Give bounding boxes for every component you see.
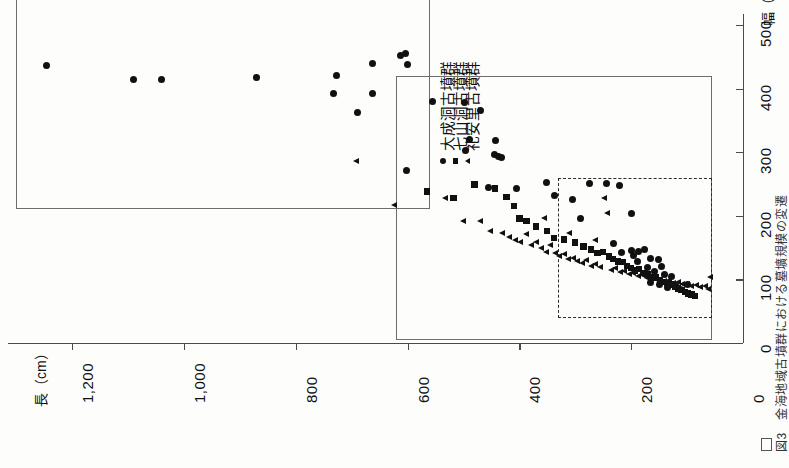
large-tomb-group-box <box>16 0 430 209</box>
width-tick-label: 300 <box>757 148 774 175</box>
length-tick-label: 200 <box>638 376 655 403</box>
legend-marker-square <box>453 158 459 164</box>
length-tick <box>519 343 520 350</box>
data-point-triangle <box>597 264 603 270</box>
data-point-circle <box>655 256 662 263</box>
data-point-circle <box>569 196 576 203</box>
length-tick-label: 600 <box>415 376 432 403</box>
data-point-square <box>533 223 539 229</box>
data-point-triangle <box>543 249 549 255</box>
length-tick <box>72 343 73 350</box>
figure-caption: 図3 金海地域古墳群における墓壙規模の変遷 <box>772 195 789 452</box>
data-point-square <box>551 235 557 241</box>
data-point-circle <box>551 192 558 199</box>
data-point-circle <box>369 90 376 97</box>
length-tick <box>408 343 409 350</box>
width-tick <box>736 25 743 26</box>
width-axis-line <box>743 14 744 343</box>
data-point-circle <box>492 137 499 144</box>
data-point-circle <box>330 90 337 97</box>
width-tick <box>736 279 743 280</box>
data-point-square <box>424 188 430 194</box>
legend-marker-circle <box>440 158 446 164</box>
figure-number-box <box>761 438 772 451</box>
legend-marker-triangle <box>465 158 470 164</box>
width-axis-title: 幅（cm） <box>757 0 777 26</box>
data-point-circle <box>158 76 165 83</box>
length-tick-label: 400 <box>526 376 543 403</box>
length-tick <box>184 343 185 350</box>
data-point-square <box>588 246 594 252</box>
data-point-triangle <box>601 195 607 201</box>
data-point-triangle <box>460 218 466 224</box>
data-point-square <box>572 239 578 245</box>
data-point-circle <box>603 180 610 187</box>
data-point-triangle <box>442 195 448 201</box>
data-point-square <box>523 218 529 224</box>
data-point-circle <box>130 76 137 83</box>
width-tick <box>736 152 743 153</box>
data-point-circle <box>610 240 617 247</box>
data-point-triangle <box>533 239 539 245</box>
data-point-triangle <box>487 228 493 234</box>
data-point-circle <box>404 61 411 68</box>
length-tick <box>631 343 632 350</box>
length-axis-line <box>8 343 743 344</box>
length-axis-title: 長（cm） <box>30 346 50 407</box>
data-point-square <box>692 293 698 299</box>
data-point-square <box>450 195 456 201</box>
data-point-circle <box>498 154 505 161</box>
data-point-circle <box>369 60 376 67</box>
legend-label: 礼安里古墳群 <box>461 61 482 151</box>
length-tick-label: 1,200 <box>79 363 96 403</box>
length-tick-label: 800 <box>303 376 320 403</box>
data-point-circle <box>485 184 492 191</box>
data-point-triangle <box>604 210 610 216</box>
data-point-triangle <box>391 202 397 208</box>
data-point-triangle <box>566 230 572 236</box>
data-point-circle <box>403 167 410 174</box>
data-point-triangle <box>592 237 598 243</box>
width-tick-label: 400 <box>757 84 774 111</box>
length-tick-label: 1,000 <box>191 363 208 403</box>
width-tick <box>736 89 743 90</box>
data-point-triangle <box>477 218 483 224</box>
data-point-square <box>580 243 586 249</box>
data-point-circle <box>628 210 635 217</box>
data-point-triangle <box>523 231 529 237</box>
data-point-triangle <box>517 239 523 245</box>
data-point-triangle <box>705 286 711 292</box>
data-point-square <box>503 194 509 200</box>
data-point-circle <box>586 180 593 187</box>
data-point-triangle <box>547 242 553 248</box>
width-tick <box>736 216 743 217</box>
data-point-circle <box>543 179 550 186</box>
data-point-square <box>471 181 477 187</box>
data-point-square <box>516 215 522 221</box>
data-point-triangle <box>353 158 359 164</box>
data-point-circle <box>354 109 361 116</box>
data-point-square <box>511 203 517 209</box>
length-tick-label: 0 <box>750 394 767 403</box>
data-point-circle <box>43 62 50 69</box>
length-tick <box>296 343 297 350</box>
data-point-square <box>492 185 498 191</box>
data-point-triangle <box>499 230 505 236</box>
data-point-circle <box>513 185 520 192</box>
data-point-square <box>544 228 550 234</box>
data-point-circle <box>618 249 625 256</box>
data-point-triangle <box>707 274 713 280</box>
data-point-triangle <box>541 215 547 221</box>
data-point-square <box>561 236 567 242</box>
